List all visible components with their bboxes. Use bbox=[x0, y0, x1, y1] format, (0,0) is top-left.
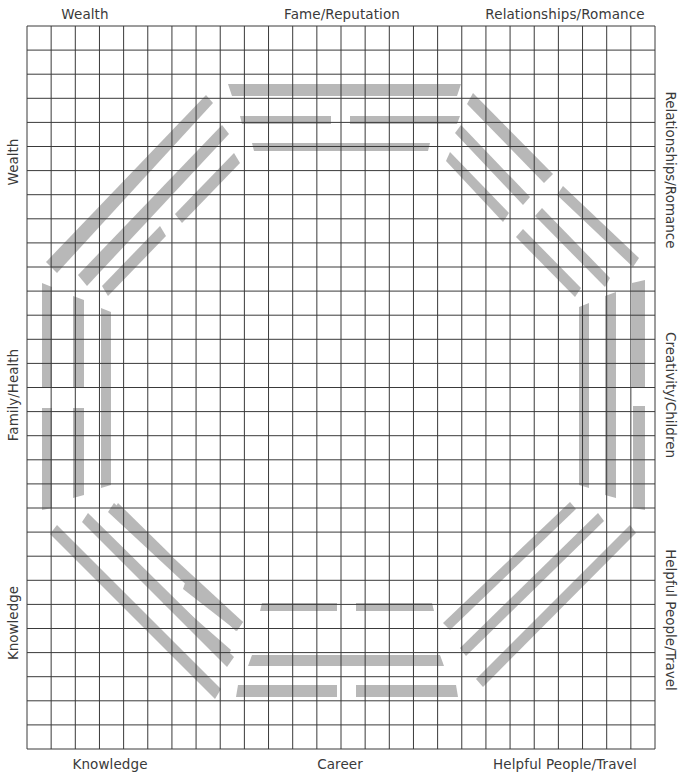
trigram-bar bbox=[236, 685, 337, 697]
trigram-bar bbox=[46, 95, 213, 273]
trigram-bar bbox=[535, 208, 610, 287]
trigram-bar bbox=[356, 685, 458, 697]
trigram-bar bbox=[557, 186, 639, 267]
trigram-bar bbox=[228, 84, 461, 96]
trigram-bar bbox=[175, 153, 240, 223]
trigram-bar bbox=[42, 408, 52, 510]
trigram-bar bbox=[633, 406, 645, 510]
label-top-relationships-romance: Relationships/Romance bbox=[485, 6, 644, 22]
label-left-knowledge: Knowledge bbox=[5, 586, 21, 660]
trigram-bar bbox=[102, 226, 166, 296]
trigram-bar bbox=[632, 280, 645, 388]
grid-lines bbox=[27, 26, 655, 749]
trigram-bar bbox=[73, 408, 84, 498]
label-bottom-helpful-people-travel: Helpful People/Travel bbox=[493, 756, 637, 772]
label-top-wealth: Wealth bbox=[61, 6, 108, 22]
label-bottom-career: Career bbox=[317, 756, 363, 772]
trigram-bar bbox=[476, 525, 636, 687]
trigram-family bbox=[42, 283, 111, 510]
label-right-relationships-romance: Relationships/Romance bbox=[663, 91, 679, 248]
trigram-bar bbox=[42, 283, 52, 388]
trigram-bar bbox=[455, 125, 530, 205]
trigram-bar bbox=[446, 152, 509, 222]
trigram-bar bbox=[248, 655, 444, 666]
trigram-career bbox=[236, 603, 458, 697]
label-left-wealth: Wealth bbox=[5, 139, 21, 186]
label-bottom-knowledge: Knowledge bbox=[72, 756, 147, 772]
trigram-creativity bbox=[579, 280, 645, 510]
label-left-family-health: Family/Health bbox=[5, 349, 21, 441]
label-right-helpful-people-travel: Helpful People/Travel bbox=[663, 549, 679, 691]
trigram-bars bbox=[42, 84, 645, 699]
label-right-creativity-children: Creativity/Children bbox=[663, 332, 679, 458]
label-top-fame-reputation: Fame/Reputation bbox=[284, 6, 400, 22]
trigram-bar bbox=[101, 308, 111, 488]
trigram-bar bbox=[73, 296, 84, 388]
trigram-fame bbox=[228, 84, 461, 151]
